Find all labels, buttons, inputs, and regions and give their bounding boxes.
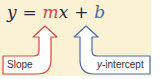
slope-label: Slope xyxy=(7,59,33,70)
y-intercept-label: y-intercept xyxy=(97,59,144,70)
